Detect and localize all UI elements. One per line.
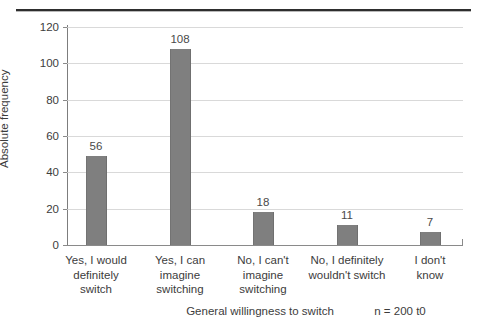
y-axis-tick-label: 40	[13, 166, 59, 178]
category-label-line: imagine	[237, 268, 288, 283]
y-axis-tick-label: 80	[13, 94, 59, 106]
gridline	[67, 136, 463, 137]
y-axis-tick-label: 60	[13, 130, 59, 142]
category-label: No, I can'timagineswitching	[237, 253, 288, 297]
y-axis-tick-label: 120	[13, 21, 59, 33]
bar	[253, 212, 274, 245]
gridline	[67, 172, 463, 173]
category-label-line: I don't	[415, 253, 446, 268]
category-label-line: No, I definitely	[309, 253, 386, 268]
y-axis-tick-label: 20	[13, 203, 59, 215]
bar-value-label: 7	[427, 216, 433, 228]
category-label: Yes, I woulddefinitelyswitch	[65, 253, 127, 297]
category-label-line: Yes, I can	[155, 253, 205, 268]
y-axis-tick-label: 100	[13, 57, 59, 69]
category-label-line: switching	[155, 282, 205, 297]
bar-value-label: 56	[90, 140, 103, 152]
sample-size-note: n = 200 t0	[374, 305, 425, 317]
bar	[420, 232, 441, 245]
bar	[170, 49, 191, 245]
bar-chart: Absolute frequency 020406080100120 56108…	[0, 0, 481, 334]
plot-area	[67, 27, 463, 245]
category-label-line: switching	[237, 282, 288, 297]
bar-value-label: 108	[170, 33, 189, 45]
category-label: I don'tknow	[415, 253, 446, 282]
bar	[86, 156, 107, 245]
category-label-line: No, I can't	[237, 253, 288, 268]
category-label-line: imagine	[155, 268, 205, 283]
bar	[337, 225, 358, 245]
y-axis-tick-mark	[63, 245, 67, 246]
category-label-line: wouldn't switch	[309, 268, 386, 283]
y-axis-tick-label: 0	[13, 239, 59, 251]
category-label-line: Yes, I would	[65, 253, 127, 268]
bar-value-label: 11	[341, 209, 353, 221]
category-label: Yes, I canimagineswitching	[155, 253, 205, 297]
gridline	[67, 63, 463, 64]
category-label-line: definitely	[65, 268, 127, 283]
x-axis-title: General willingness to switch	[186, 305, 334, 317]
category-label-line: know	[415, 268, 446, 283]
bar-value-label: 18	[257, 196, 270, 208]
gridline	[67, 100, 463, 101]
x-axis-line	[67, 245, 463, 246]
category-label-line: switch	[65, 282, 127, 297]
y-axis-title: Absolute frequency	[0, 70, 10, 168]
gridline	[67, 209, 463, 210]
gridline	[67, 27, 463, 28]
category-label: No, I definitelywouldn't switch	[309, 253, 386, 282]
